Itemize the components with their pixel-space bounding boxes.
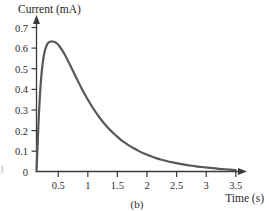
x-tick-label: 2	[144, 180, 149, 191]
y-tick-label: 0.3	[15, 105, 28, 116]
y-tick-label: 0.6	[15, 43, 28, 54]
figure-caption: (b)	[131, 198, 144, 211]
edge-fragment-glyph: )	[0, 163, 4, 175]
y-tick-labels: 0.7 0.6 0.5 0.4 0.3 0.2 0.1 0	[15, 23, 29, 178]
x-tick-label: 3.5	[229, 180, 242, 191]
x-axis-title: Time (s)	[225, 192, 264, 205]
y-tick-label: 0.2	[15, 126, 28, 137]
x-tick-labels: 0.5 1 1.5 2 2.5 3 3.5	[52, 180, 243, 191]
y-tick-label: 0.5	[15, 64, 28, 75]
y-axis-arrowhead	[33, 15, 40, 24]
current-vs-time-chart: )	[0, 0, 269, 211]
x-tick-label: 0.5	[52, 180, 65, 191]
y-axis-title: Current (mA)	[18, 3, 81, 16]
x-tick-label: 3	[204, 180, 209, 191]
y-tick-label: 0.4	[15, 84, 29, 95]
current-curve	[37, 41, 236, 171]
x-axis-arrowhead	[238, 168, 247, 175]
figure-container: )	[0, 0, 269, 211]
y-tick-label-zero: 0	[23, 167, 28, 178]
x-tick-label: 1	[85, 180, 90, 191]
x-tick-label: 1.5	[111, 180, 124, 191]
x-tick-marks	[58, 172, 236, 178]
x-tick-label: 2.5	[170, 180, 183, 191]
y-tick-label: 0.7	[15, 23, 28, 34]
y-tick-label: 0.1	[15, 146, 28, 157]
